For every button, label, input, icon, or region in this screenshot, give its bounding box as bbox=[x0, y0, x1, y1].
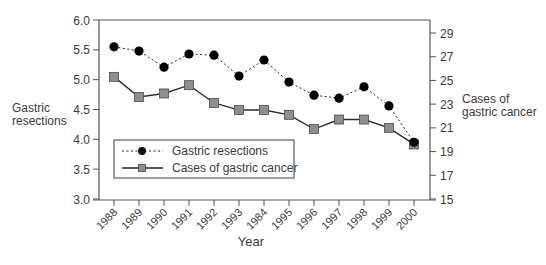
square-data-point bbox=[385, 123, 394, 132]
square-data-point bbox=[335, 115, 344, 124]
left-tick-label: 6.0 bbox=[73, 14, 90, 28]
left-axis-title: Gastric resections bbox=[12, 102, 67, 128]
x-axis: 1988198919901991199219931984199519961997… bbox=[94, 200, 420, 232]
x-tick-label: 2000 bbox=[394, 206, 420, 232]
x-tick-label: 1991 bbox=[169, 206, 195, 232]
right-tick-label: 17 bbox=[440, 169, 454, 183]
x-tick-label: 1996 bbox=[294, 206, 320, 232]
circle-marker-icon bbox=[138, 147, 146, 155]
x-tick-label: 1997 bbox=[319, 206, 345, 232]
right-y-axis: 1517192123252729 bbox=[430, 27, 454, 207]
x-tick-label: 1990 bbox=[144, 206, 170, 232]
left-tick-label: 3.5 bbox=[73, 163, 90, 177]
right-axis-title-line2: gastric cancer bbox=[462, 106, 537, 119]
circle-data-point bbox=[209, 51, 218, 60]
right-tick-label: 19 bbox=[440, 145, 454, 159]
right-tick-label: 15 bbox=[440, 193, 454, 207]
x-tick-label: 1993 bbox=[219, 206, 245, 232]
circle-data-point bbox=[359, 82, 368, 91]
right-tick-label: 21 bbox=[440, 121, 454, 135]
x-tick-label: 1989 bbox=[119, 206, 145, 232]
x-tick-label: 1998 bbox=[344, 206, 370, 232]
left-tick-label: 5.0 bbox=[73, 73, 90, 87]
right-tick-label: 29 bbox=[440, 27, 454, 41]
circle-data-point bbox=[184, 49, 193, 58]
square-data-point bbox=[235, 106, 244, 115]
dual-axis-line-chart: 3.03.54.04.55.05.56.0 1517192123252729 1… bbox=[0, 0, 546, 265]
right-tick-label: 27 bbox=[440, 50, 454, 64]
x-tick-label: 1992 bbox=[194, 206, 220, 232]
circle-data-point bbox=[109, 42, 118, 51]
square-data-point bbox=[285, 110, 294, 119]
x-tick-label: 1995 bbox=[269, 206, 295, 232]
circle-data-point bbox=[259, 55, 268, 64]
x-axis-title: Year bbox=[238, 234, 265, 249]
left-y-axis: 3.03.54.04.55.05.56.0 bbox=[73, 14, 99, 207]
circle-data-point bbox=[334, 94, 343, 103]
left-tick-label: 3.0 bbox=[73, 193, 90, 207]
circle-data-point bbox=[409, 138, 418, 147]
right-tick-label: 25 bbox=[440, 74, 454, 88]
legend: Gastric resections Cases of gastric canc… bbox=[114, 140, 297, 178]
circle-data-point bbox=[234, 71, 243, 80]
left-tick-label: 4.0 bbox=[73, 133, 90, 147]
circle-data-point bbox=[309, 91, 318, 100]
square-marker-icon bbox=[139, 165, 146, 172]
square-data-point bbox=[260, 106, 269, 115]
legend-label: Cases of gastric cancer bbox=[172, 161, 297, 175]
square-data-point bbox=[310, 125, 319, 134]
right-axis-title: Cases of gastric cancer bbox=[462, 93, 537, 119]
legend-label: Gastric resections bbox=[172, 144, 268, 158]
square-data-point bbox=[210, 98, 219, 107]
square-data-point bbox=[160, 89, 169, 98]
circle-data-point bbox=[159, 63, 168, 72]
x-tick-label: 1984 bbox=[244, 206, 270, 232]
right-tick-label: 23 bbox=[440, 98, 454, 112]
series-cases-of-gastric-cancer bbox=[110, 72, 419, 149]
square-data-point bbox=[360, 115, 369, 124]
circle-data-point bbox=[134, 46, 143, 55]
square-data-point bbox=[185, 81, 194, 90]
left-axis-title-line2: resections bbox=[12, 115, 67, 128]
square-data-point bbox=[110, 72, 119, 81]
x-tick-label: 1988 bbox=[94, 206, 120, 232]
left-tick-label: 4.5 bbox=[73, 103, 90, 117]
square-data-point bbox=[135, 93, 144, 102]
circle-data-point bbox=[284, 77, 293, 86]
circle-data-point bbox=[384, 101, 393, 110]
left-tick-label: 5.5 bbox=[73, 43, 90, 57]
x-tick-label: 1999 bbox=[369, 206, 395, 232]
